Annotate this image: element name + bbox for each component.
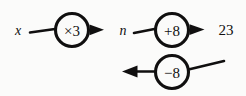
arrowhead-minus8-left (122, 66, 138, 78)
arrowhead-times3-to-n (90, 25, 105, 36)
output-value-label: 23 (219, 22, 234, 38)
connector-into-minus8 (189, 61, 225, 70)
operation-node-plus8-label: +8 (164, 23, 180, 39)
operation-node-minus8-label: −8 (164, 65, 180, 81)
connector-n-to-plus8 (134, 29, 157, 34)
input-variable-label: x (14, 23, 22, 38)
intermediate-variable-label: n (120, 23, 127, 38)
function-machine-diagram: x ×3 n +8 23 −8 (0, 0, 246, 96)
operation-node-times3-label: ×3 (64, 23, 80, 39)
arrowhead-plus8-to-output (190, 24, 205, 35)
connector-x-to-times3 (30, 29, 55, 33)
diagram-canvas: x ×3 n +8 23 −8 (0, 0, 246, 96)
